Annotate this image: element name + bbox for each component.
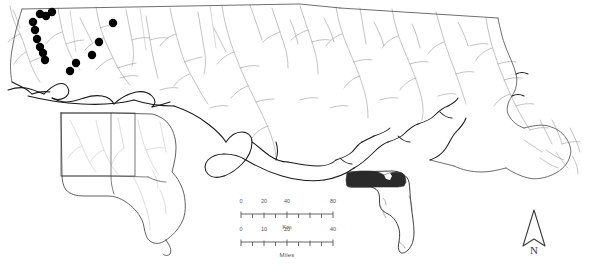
scale-tick-label: 20	[284, 226, 290, 232]
study-area-panhandle-fill	[346, 171, 406, 187]
miles-scale-tick-labels: 0102040	[240, 226, 332, 234]
scale-tick-label: 40	[330, 226, 336, 232]
scale-tick-label: 40	[284, 198, 290, 204]
miles-scale-bar: 0102040 Miles	[240, 226, 334, 258]
scale-tick-label: 20	[261, 198, 267, 204]
km-scale-bar-graphic	[240, 211, 334, 220]
scale-tick-label: 0	[239, 198, 242, 204]
miles-scale-caption: Miles	[240, 252, 334, 258]
scale-tick-label: 10	[261, 226, 267, 232]
miles-scale-bar-graphic	[240, 239, 334, 248]
map-figure: 0204080 Km 0102040	[0, 0, 596, 264]
km-scale-tick-labels: 0204080	[240, 198, 332, 206]
north-arrow-label: N	[512, 244, 556, 256]
scale-tick-label: 80	[330, 198, 336, 204]
scale-tick-label: 0	[239, 226, 242, 232]
